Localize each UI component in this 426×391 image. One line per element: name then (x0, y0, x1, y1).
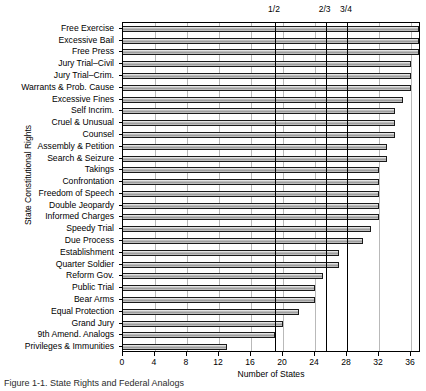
y-axis-label-5: Warrants & Prob. Cause (21, 82, 114, 91)
x-axis-tick-8 (186, 352, 187, 356)
y-axis-label-2: Free Press (72, 47, 114, 56)
y-axis-tick-labels: Free ExerciseExcessive BailFree PressJur… (0, 22, 118, 352)
bar-row[interactable] (123, 48, 419, 56)
bar-row[interactable] (123, 202, 419, 210)
x-axis-tick-16 (250, 352, 251, 356)
bar-row[interactable] (123, 190, 419, 198)
y-axis-label-9: Counsel (82, 129, 114, 138)
bar-row[interactable] (123, 213, 419, 221)
y-axis-label-1: Excessive Bail (59, 35, 114, 44)
y-axis-label-6: Excessive Fines (52, 94, 114, 103)
y-axis-label-27: Privileges & Immunities (25, 342, 114, 351)
bar[interactable] (123, 61, 411, 67)
y-axis-label-16: Informed Charges (45, 212, 114, 221)
x-axis-tick-label-24: 24 (309, 357, 319, 367)
bar-row[interactable] (123, 343, 419, 351)
bar-row[interactable] (123, 96, 419, 104)
bar[interactable] (123, 226, 371, 232)
bar[interactable] (123, 85, 411, 91)
bar[interactable] (123, 262, 339, 268)
bar-row[interactable] (123, 320, 419, 328)
threshold-line-1-2 (275, 22, 276, 351)
bar[interactable] (123, 238, 363, 244)
bar-row[interactable] (123, 296, 419, 304)
bar-row[interactable] (123, 60, 419, 68)
bar[interactable] (123, 97, 403, 103)
bar[interactable] (123, 250, 339, 256)
x-axis-tick-36 (410, 352, 411, 356)
x-axis-tick-label-32: 32 (373, 357, 383, 367)
y-axis-label-17: Speedy Trial (66, 224, 114, 233)
bar-row[interactable] (123, 37, 419, 45)
bar[interactable] (123, 297, 315, 303)
x-axis-tick-24 (314, 352, 315, 356)
bar[interactable] (123, 285, 315, 291)
bar-row[interactable] (123, 237, 419, 245)
y-axis-label-0: Free Exercise (61, 23, 114, 32)
bar-row[interactable] (123, 155, 419, 163)
bars-group (123, 23, 419, 351)
bar[interactable] (123, 167, 379, 173)
bar[interactable] (123, 321, 283, 327)
bar[interactable] (123, 132, 395, 138)
bar[interactable] (123, 120, 395, 126)
plot-area (122, 22, 420, 352)
bar[interactable] (123, 214, 379, 220)
x-axis-tick-label-0: 0 (120, 357, 125, 367)
y-axis-label-4: Jury Trial–Crim. (54, 71, 114, 80)
bar-row[interactable] (123, 166, 419, 174)
x-axis-tick-label-20: 20 (277, 357, 287, 367)
bar-row[interactable] (123, 25, 419, 33)
x-axis-tick-label-16: 16 (245, 357, 255, 367)
bar-row[interactable] (123, 261, 419, 269)
y-axis-label-21: Reform Gov. (66, 271, 114, 280)
bar[interactable] (123, 309, 299, 315)
bar-row[interactable] (123, 72, 419, 80)
x-axis-tick-4 (154, 352, 155, 356)
bar-row[interactable] (123, 107, 419, 115)
bar[interactable] (123, 273, 323, 279)
y-axis-label-18: Due Process (65, 236, 114, 245)
bar[interactable] (123, 344, 227, 350)
bar-row[interactable] (123, 331, 419, 339)
y-axis-label-23: Bear Arms (74, 294, 114, 303)
chart-figure: State Constitutional Rights Free Exercis… (0, 0, 426, 391)
bar[interactable] (123, 203, 379, 209)
bar-row[interactable] (123, 119, 419, 127)
x-axis-tick-20 (282, 352, 283, 356)
y-axis-label-14: Freedom of Speech (39, 188, 114, 197)
y-axis-label-13: Confrontation (62, 177, 114, 186)
x-axis-tick-32 (378, 352, 379, 356)
bar[interactable] (123, 332, 275, 338)
bar[interactable] (123, 38, 419, 44)
x-axis-tick-0 (122, 352, 123, 356)
bar-row[interactable] (123, 225, 419, 233)
bar[interactable] (123, 49, 419, 55)
figure-caption: Figure 1-1. State Rights and Federal Ana… (4, 378, 422, 388)
threshold-line-3-4 (347, 22, 348, 351)
bar-row[interactable] (123, 249, 419, 257)
threshold-line-2-3 (326, 22, 327, 351)
y-axis-label-3: Jury Trial–Civil (58, 59, 114, 68)
y-axis-label-24: Equal Protection (51, 306, 114, 315)
y-axis-label-22: Public Trial (72, 283, 114, 292)
x-axis-tick-label-4: 4 (152, 357, 157, 367)
bar[interactable] (123, 179, 379, 185)
bar[interactable] (123, 108, 395, 114)
x-axis-tick-label-12: 12 (213, 357, 223, 367)
x-axis-tick-label-36: 36 (405, 357, 415, 367)
bar-row[interactable] (123, 84, 419, 92)
bar-row[interactable] (123, 308, 419, 316)
bar-row[interactable] (123, 143, 419, 151)
bar[interactable] (123, 191, 379, 197)
bar-row[interactable] (123, 131, 419, 139)
bar-row[interactable] (123, 284, 419, 292)
bar[interactable] (123, 73, 411, 79)
bar-row[interactable] (123, 178, 419, 186)
x-axis-tick-label-8: 8 (184, 357, 189, 367)
bar[interactable] (123, 26, 419, 32)
threshold-label-1-2: 1/2 (268, 4, 280, 14)
y-axis-label-10: Assembly & Petition (38, 141, 114, 150)
y-axis-label-20: Quarter Soldier (56, 259, 114, 268)
bar-row[interactable] (123, 272, 419, 280)
